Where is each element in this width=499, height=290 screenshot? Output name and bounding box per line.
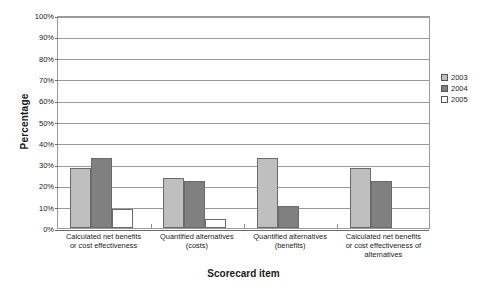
category-label: Calculated net benefitsor cost effective… [53,232,154,250]
category-label-line: or cost effectiveness [53,241,154,250]
legend-label: 2004 [451,85,468,93]
bar-group [151,17,244,228]
y-axis-tick-label: 90% [39,35,54,43]
bar-2004 [91,158,112,228]
legend-item-2004: 2004 [441,83,497,94]
category-label-line: Quantified alternatives [240,232,341,241]
bar-2005 [205,219,226,228]
y-axis-tick-label: 70% [39,77,54,85]
y-axis-tick-label: 80% [39,56,54,64]
bar-group [58,17,151,228]
y-axis-tick-label: 20% [39,184,54,192]
y-axis-tick-mark [55,230,58,231]
bar-chart: Percentage 0%10%20%30%40%50%60%70%80%90%… [0,0,499,290]
category-label-line: or cost effectiveness of [333,241,434,250]
category-label: Calculated net benefitsor cost effective… [333,232,434,260]
bar-2004 [371,181,392,228]
category-label-line: Quantified alternatives [146,232,247,241]
bar-2003 [70,168,91,228]
legend-item-2005: 2005 [441,94,497,105]
category-label-line: (benefits) [240,241,341,250]
bar-group [338,17,431,228]
y-axis-tick-label: 60% [39,98,54,106]
legend: 200320042005 [441,72,497,105]
legend-label: 2005 [451,96,468,104]
category-label-line: Calculated net benefits [333,232,434,241]
legend-item-2003: 2003 [441,72,497,83]
category-label-line: (costs) [146,241,247,250]
gridline [58,230,429,231]
legend-label: 2003 [451,74,468,82]
bar-2003 [163,178,184,228]
category-label: Quantified alternatives(costs) [146,232,247,250]
bar-groups [58,17,429,228]
y-axis-tick-label: 30% [39,162,54,170]
category-label: Quantified alternatives(benefits) [240,232,341,250]
legend-swatch-icon [441,74,448,81]
bar-2004 [278,206,299,228]
y-axis-tick-label: 50% [39,120,54,128]
legend-swatch-icon [441,85,448,92]
category-label-line: Calculated net benefits [53,232,154,241]
y-axis-tick-label: 10% [39,205,54,213]
bar-2003 [350,168,371,228]
plot-area: 0%10%20%30%40%50%60%70%80%90%100% [57,16,430,229]
bar-2003 [257,158,278,228]
y-axis-tick-label: 100% [35,13,54,21]
y-axis-title: Percentage [19,62,30,182]
legend-swatch-icon [441,96,448,103]
category-label-line: alternatives [333,250,434,259]
bar-group [245,17,338,228]
bar-2005 [112,209,133,228]
y-axis-tick-label: 40% [39,141,54,149]
x-axis-category-labels: Calculated net benefitsor cost effective… [57,232,430,266]
x-axis-title: Scorecard item [57,268,430,279]
bar-2004 [184,181,205,228]
